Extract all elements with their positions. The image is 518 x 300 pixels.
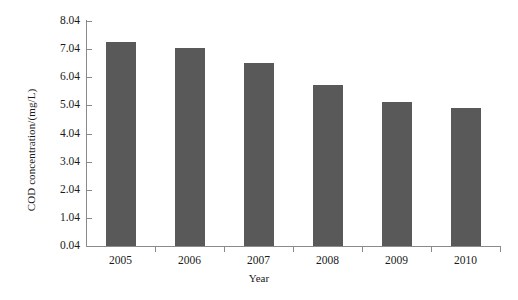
y-axis-tick-label: 5.04: [38, 99, 80, 111]
y-axis-tick-label: 7.04: [38, 43, 80, 55]
y-axis-tick-label: 2.04: [38, 184, 80, 196]
y-axis-tick-label: 8.04: [38, 15, 80, 27]
y-axis-tick-label: 4.04: [38, 128, 80, 140]
x-axis-separator-tick: [500, 247, 501, 252]
y-axis-tick-label-text: 8.04: [40, 15, 80, 27]
x-axis-tick-label: 2010: [436, 253, 496, 267]
y-axis-tick-label: 3.04: [38, 156, 80, 168]
x-axis-separator-tick: [431, 247, 432, 252]
bar-2009: [382, 102, 412, 246]
x-axis-tick-label: 2007: [229, 253, 289, 267]
y-axis-tick-label-text: 0.04: [40, 240, 80, 252]
bar-2006: [175, 48, 205, 246]
y-axis-tick-label-text: 2.04: [40, 184, 80, 196]
y-axis-tick: [87, 246, 92, 247]
y-axis-tick-label-text: 7.04: [40, 43, 80, 55]
y-axis-tick-label-text: 3.04: [40, 156, 80, 168]
x-axis-separator-tick: [224, 247, 225, 252]
y-axis-tick-label: 6.04: [38, 71, 80, 83]
cod-concentration-bar-chart: COD concentration/(mg/L) 0.041.042.043.0…: [0, 0, 518, 300]
y-axis-tick-label-text: 1.04: [40, 212, 80, 224]
y-axis-tick-label: 1.04: [38, 212, 80, 224]
x-axis-title: Year: [0, 272, 518, 284]
y-axis-tick-label: 0.04: [38, 240, 80, 252]
x-axis-tick-label: 2009: [367, 253, 427, 267]
x-axis-separator-tick: [293, 247, 294, 252]
x-axis-tick-label: 2008: [298, 253, 358, 267]
y-axis-tick-label-text: 6.04: [40, 71, 80, 83]
plot-area: [86, 21, 500, 246]
bar-2010: [451, 108, 481, 246]
bar-2008: [313, 85, 343, 246]
bar-2007: [244, 63, 274, 246]
bar-2005: [106, 42, 136, 246]
x-axis-separator-tick: [155, 247, 156, 252]
x-axis-tick-label: 2005: [91, 253, 151, 267]
x-axis-separator-tick: [362, 247, 363, 252]
x-axis-tick-label: 2006: [160, 253, 220, 267]
y-axis-tick-label-text: 5.04: [40, 99, 80, 111]
y-axis-tick-label-text: 4.04: [40, 128, 80, 140]
